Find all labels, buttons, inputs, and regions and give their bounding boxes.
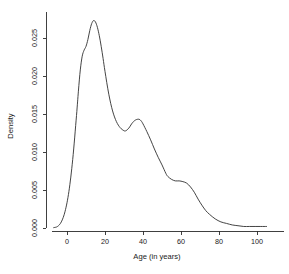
x-tick-label-5: 100: [251, 237, 263, 246]
x-tick-label-3: 60: [177, 237, 185, 246]
data-series-group: [54, 20, 267, 227]
y-tick-label-2: 0.010: [30, 143, 39, 161]
y-tick-label-4: 0.020: [30, 67, 39, 85]
x-tick-label-0: 0: [65, 237, 69, 246]
y-tick-label-3: 0.015: [30, 105, 39, 123]
y-tick-label-1: 0.005: [30, 181, 39, 199]
density-plot-figure: 0.0000.0050.0100.0150.0200.025 Density 0…: [0, 0, 289, 274]
density-curve-line: [54, 20, 267, 227]
plot-canvas: 0.0000.0050.0100.0150.0200.025 Density 0…: [0, 0, 289, 274]
y-axis-title: Density: [6, 113, 15, 139]
y-tick-label-0: 0.000: [30, 219, 39, 237]
x-tick-label-4: 80: [215, 237, 223, 246]
x-axis-title: Age (in years): [133, 252, 181, 261]
y-axis-ticks: [43, 38, 47, 228]
x-tick-label-1: 20: [101, 237, 109, 246]
y-axis-tick-labels: 0.0000.0050.0100.0150.0200.025: [30, 29, 39, 237]
x-axis-group: 020406080100 Age (in years): [52, 231, 284, 261]
x-axis-tick-labels: 020406080100: [65, 237, 263, 246]
y-tick-label-5: 0.025: [30, 29, 39, 47]
y-axis-group: 0.0000.0050.0100.0150.0200.025 Density: [6, 12, 46, 237]
x-tick-label-2: 40: [139, 237, 147, 246]
x-axis-ticks: [67, 231, 257, 235]
